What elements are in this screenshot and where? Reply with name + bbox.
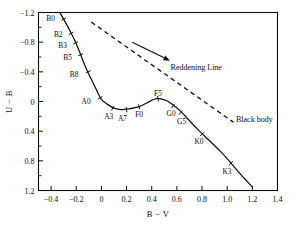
- spectral-type-label-a7: A7: [118, 114, 127, 123]
- spectral-type-label-g0: G0: [167, 109, 176, 118]
- x-tick-label: −0.4: [44, 195, 59, 204]
- x-tick-label: 0.2: [122, 195, 132, 204]
- x-tick-label: 1.4: [273, 195, 283, 204]
- x-tick-label: −0.2: [69, 195, 84, 204]
- black-body-label: Black body: [236, 115, 273, 124]
- y-axis-title: U − B: [4, 90, 14, 113]
- y-tick-label: −0.8: [20, 38, 35, 47]
- spectral-type-label-b5: B5: [63, 53, 72, 62]
- spectral-type-label-k3: K3: [222, 167, 231, 176]
- spectral-type-label-g5: G5: [177, 117, 186, 126]
- x-tick-label: 0.6: [172, 195, 182, 204]
- y-tick-label: 0.4: [25, 127, 35, 136]
- annotations-group: Reddening LineBlack body: [132, 42, 272, 123]
- spectral-type-label-f0: F0: [135, 110, 143, 119]
- x-tick-label: 1.2: [247, 195, 257, 204]
- spectral-type-label-b2: B2: [54, 30, 63, 39]
- x-tick-label: 1.0: [222, 195, 232, 204]
- plot-canvas: −0.4−0.200.20.40.60.81.01.21.4−1.2−0.8−0…: [0, 0, 293, 229]
- color-color-diagram-figure: −0.4−0.200.20.40.60.81.01.21.4−1.2−0.8−0…: [0, 0, 293, 229]
- y-tick-label: 1.2: [25, 187, 35, 196]
- spectral-type-label-a3: A3: [104, 112, 113, 121]
- spectral-type-tick: [126, 107, 127, 112]
- reddening-arrow-shaft: [132, 42, 164, 58]
- axis-titles-group: B − VU − B: [4, 90, 170, 218]
- y-tick-label: −0.4: [20, 68, 35, 77]
- reddening-line-label: Reddening Line: [171, 63, 223, 72]
- y-tick-label: 0.8: [25, 157, 35, 166]
- spectral-type-label-k0: K0: [195, 137, 204, 146]
- spectral-type-label-b8: B8: [70, 70, 79, 79]
- spectral-type-label-b3: B3: [58, 41, 67, 50]
- x-tick-label: 0.4: [147, 195, 157, 204]
- y-tick-label: −1.2: [20, 9, 35, 18]
- x-tick-label: 0.8: [197, 195, 207, 204]
- spectral-type-label-a0: A0: [82, 97, 91, 106]
- x-tick-label: 0: [99, 195, 103, 204]
- x-axis-title: B − V: [147, 209, 170, 219]
- spectral-type-label-f5: F5: [154, 89, 162, 98]
- spectral-type-tick: [139, 104, 140, 109]
- reddening-arrow-head: [163, 56, 170, 61]
- y-tick-label: 0: [31, 98, 35, 107]
- spectral-type-label-b0: B0: [46, 14, 55, 23]
